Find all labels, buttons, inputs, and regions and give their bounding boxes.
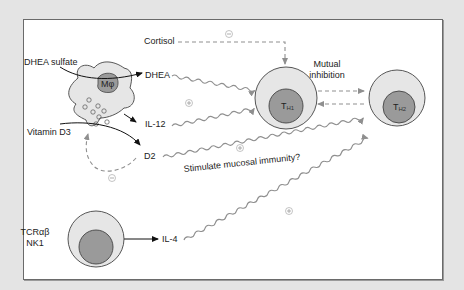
minus-icon-cortisol [226,31,233,38]
macrophage-label: Mφ [101,79,114,89]
arrow-cortisol-to-th1 [178,42,285,64]
minus-icon-d2-feedback [109,175,116,182]
label-cortisol: Cortisol [144,36,175,46]
arrow-dhea-to-th1 [172,75,255,93]
label-mutual: Mutual [313,59,340,69]
nkt-nucleus [79,230,113,264]
label-nkt-line2: NK1 [26,238,44,248]
arrow-il12-to-th1 [172,107,255,127]
plus-icon-dhea-il12 [186,100,193,107]
th1-cell: TH1 [255,67,317,129]
macrophage-cell: Mφ [69,62,135,126]
arrow-il4-to-th2 [183,137,368,241]
label-nkt-line1: TCRαβ [21,227,50,237]
label-stimulate-mucosal: Stimulate mucosal immunity? [183,152,300,174]
diagram-stage: Mφ DHEA sulfate DHEA IL-12 Vitamin D3 D2… [0,0,464,290]
arrow-vitd3-to-d2 [60,123,140,145]
plus-icon-il4-effect [286,208,293,215]
plus-icon-d2-effect [237,145,244,152]
label-inhibition: inhibition [309,70,345,80]
label-dhea: DHEA [145,70,170,80]
arrow-macrophage-to-il12 [124,114,136,122]
nkt-cell [68,211,124,267]
label-d2: D2 [144,151,156,161]
label-il12: IL-12 [145,119,166,129]
arrow-d2-feedback-to-macrophage [86,134,136,171]
label-il4: IL-4 [162,234,178,244]
th2-cell: TH2 [369,70,425,126]
label-dhea-sulfate: DHEA sulfate [24,57,78,67]
diagram-canvas: Mφ DHEA sulfate DHEA IL-12 Vitamin D3 D2… [0,0,464,290]
label-vitamin-d3: Vitamin D3 [27,127,71,137]
